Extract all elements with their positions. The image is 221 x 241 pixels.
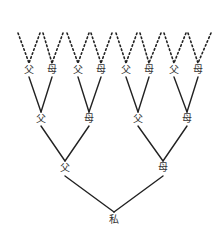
parent-node: 母 [156,162,170,174]
grandparent-node: 父 [34,113,48,125]
great-grandparent-node: 父 [71,64,85,76]
great-grandparent-node: 母 [142,64,156,76]
self-node: 私 [107,214,121,226]
great-grandparent-node: 父 [22,64,36,76]
parent-node: 父 [58,162,72,174]
grandparent-node: 父 [131,113,145,125]
great-grandparent-node: 父 [119,64,133,76]
grandparent-node: 母 [180,113,194,125]
great-grandparent-node: 母 [94,64,108,76]
great-grandparent-node: 母 [191,64,205,76]
great-grandparent-node: 父 [167,64,181,76]
grandparent-node: 母 [82,113,96,125]
great-grandparent-node: 母 [45,64,59,76]
